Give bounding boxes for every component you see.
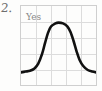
screenshot-root: 2. Yes — [0, 0, 102, 91]
bell-curve-line — [21, 23, 96, 73]
item-number-label: 2. — [0, 1, 13, 15]
series-label-yes: Yes — [26, 12, 102, 22]
